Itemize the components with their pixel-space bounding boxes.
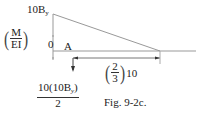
resultant-area-label: 10(10By) 2	[37, 82, 79, 109]
point-a-label: A	[64, 40, 72, 52]
axis-label-m-over-ei: ( MEI )	[3, 27, 29, 50]
moment-diagram-lines	[0, 0, 203, 119]
centroid-distance-label: ( 23 ) 10	[104, 61, 137, 84]
dimension-arrow-right	[155, 57, 160, 60]
dimension-arrow-left	[73, 57, 78, 60]
zero-label: 0	[48, 38, 54, 50]
peak-moment-label: 10By	[27, 3, 49, 17]
figure-caption: Fig. 9-2c.	[104, 96, 146, 108]
resultant-arrow-head	[71, 66, 75, 72]
